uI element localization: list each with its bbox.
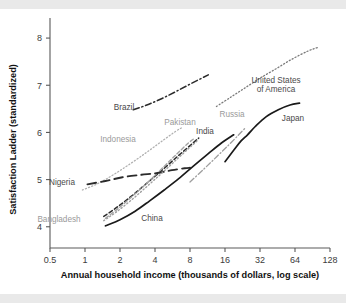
y-tick-label: 6 bbox=[37, 128, 42, 138]
y-axis-title: Satisfaction Ladder (standardized) bbox=[8, 64, 18, 215]
axis-lines bbox=[50, 18, 330, 248]
series-label-brazil: Brazil bbox=[114, 103, 135, 112]
series-label-bangladesh: Bangladesh bbox=[37, 215, 81, 224]
series-label-russia: Russia bbox=[219, 110, 244, 119]
bottom-decor-band bbox=[0, 294, 346, 303]
x-tick-label: 2 bbox=[117, 255, 122, 265]
line-chart-svg: 0.51248163264128 45678 United Statesof A… bbox=[0, 9, 346, 294]
y-tick-label: 8 bbox=[37, 33, 42, 43]
x-tick-label: 1 bbox=[82, 255, 87, 265]
x-axis-ticks: 0.51248163264128 bbox=[44, 248, 338, 265]
series-label-pakistan: Pakistan bbox=[164, 118, 196, 127]
series-label-united-states-of-america: United States bbox=[251, 76, 300, 85]
series-line-china bbox=[105, 135, 233, 226]
x-axis-title: Annual household income (thousands of do… bbox=[61, 270, 319, 280]
series-line-brazil bbox=[133, 75, 208, 110]
x-tick-label: 4 bbox=[152, 255, 157, 265]
series-inline-labels: United Statesof AmericaBrazilJapanRussia… bbox=[37, 76, 304, 224]
y-tick-label: 7 bbox=[37, 81, 42, 91]
series-label-united-states-of-america: of America bbox=[257, 85, 296, 94]
series-label-china: China bbox=[141, 214, 163, 223]
series-label-india: India bbox=[196, 127, 214, 136]
chart-screenshot: 0.51248163264128 45678 United Statesof A… bbox=[0, 0, 346, 303]
x-tick-label: 128 bbox=[322, 255, 337, 265]
series-label-indonesia: Indonesia bbox=[100, 135, 136, 144]
y-axis-ticks: 45678 bbox=[37, 33, 50, 232]
top-decor-band bbox=[0, 0, 346, 9]
y-tick-label: 5 bbox=[37, 175, 42, 185]
axes: 0.51248163264128 45678 bbox=[37, 18, 338, 265]
x-tick-label: 0.5 bbox=[44, 255, 57, 265]
series-label-japan: Japan bbox=[282, 114, 305, 123]
x-tick-label: 16 bbox=[220, 255, 230, 265]
chart-figure: 0.51248163264128 45678 United Statesof A… bbox=[0, 9, 346, 294]
x-tick-label: 32 bbox=[255, 255, 265, 265]
series-label-nigeria: Nigeria bbox=[49, 178, 75, 187]
x-tick-label: 8 bbox=[187, 255, 192, 265]
x-tick-label: 64 bbox=[290, 255, 300, 265]
